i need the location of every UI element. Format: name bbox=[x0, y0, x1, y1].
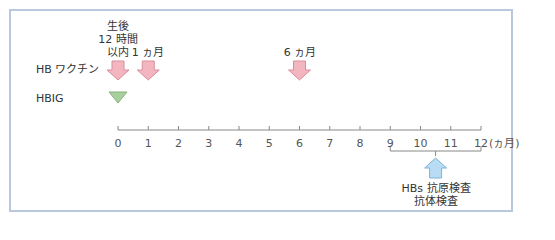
vaccine-arrow-month0 bbox=[107, 61, 129, 80]
month1-label: 1 ヵ月 bbox=[130, 46, 166, 59]
birth-label-line2: 12 時間 bbox=[94, 33, 142, 46]
tick-label: 1 bbox=[138, 137, 158, 150]
row-label-hb-vaccine: HB ワクチン bbox=[36, 63, 99, 76]
vaccine-arrow-month6 bbox=[289, 61, 311, 80]
axis-unit: (ヵ月) bbox=[489, 137, 520, 150]
month6-label: 6 ヵ月 bbox=[281, 46, 319, 59]
tick-label: 3 bbox=[199, 137, 219, 150]
tick-label: 6 bbox=[290, 137, 310, 150]
tick-label: 10 bbox=[411, 137, 431, 150]
tick-label: 2 bbox=[169, 137, 189, 150]
test-arrow bbox=[425, 158, 447, 178]
hbig-triangle bbox=[109, 92, 127, 103]
tick-label: 8 bbox=[350, 137, 370, 150]
tick-label: 12 bbox=[471, 137, 491, 150]
test-label-line1: HBs 抗原検査 bbox=[395, 182, 477, 195]
tick-label: 0 bbox=[108, 137, 128, 150]
birth-label-line1: 生後 bbox=[94, 20, 142, 33]
tick-label: 4 bbox=[229, 137, 249, 150]
tick-label: 7 bbox=[320, 137, 340, 150]
tick-label: 5 bbox=[259, 137, 279, 150]
tick-label: 9 bbox=[380, 137, 400, 150]
vaccine-arrow-month1 bbox=[137, 61, 159, 80]
row-label-hbig: HBIG bbox=[36, 92, 64, 105]
test-label-line2: 抗体検査 bbox=[395, 195, 477, 208]
tick-label: 11 bbox=[441, 137, 461, 150]
